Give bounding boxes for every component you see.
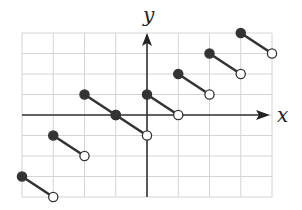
closed-dot-icon [142, 90, 151, 99]
open-dot-icon [205, 90, 214, 99]
function-graph: x y [0, 0, 302, 210]
closed-dot-icon [111, 110, 120, 119]
segment-line [22, 177, 53, 198]
closed-dot-icon [80, 90, 89, 99]
segment-line [116, 115, 147, 136]
segment-line [210, 54, 241, 75]
closed-dot-icon [205, 49, 214, 58]
open-dot-icon [142, 131, 151, 140]
closed-dot-icon [174, 69, 183, 78]
segment-line [85, 95, 116, 116]
open-dot-icon [174, 110, 183, 119]
closed-dot-icon [49, 131, 58, 140]
y-axis-label: y [142, 3, 155, 27]
segment-line [53, 136, 84, 157]
open-dot-icon [236, 69, 245, 78]
open-dot-icon [267, 49, 276, 58]
closed-dot-icon [17, 172, 26, 181]
closed-dot-icon [236, 28, 245, 37]
segment-line [147, 95, 178, 116]
open-dot-icon [80, 151, 89, 160]
segment-line [178, 74, 209, 95]
open-dot-icon [49, 192, 58, 201]
segment-line [241, 33, 272, 54]
x-axis-label: x [277, 103, 288, 127]
